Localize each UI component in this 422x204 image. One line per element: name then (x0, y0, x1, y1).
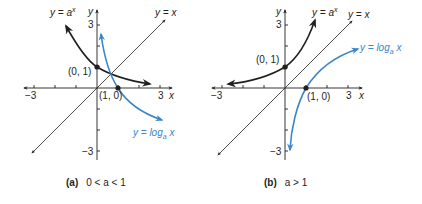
tick-label-3: 3 (346, 90, 352, 101)
point-log-intercept (303, 85, 308, 90)
caption-b: (b)a > 1 (264, 177, 308, 188)
x-axis-label: x (168, 90, 175, 101)
panel-b: −3 3 x y 3 −3 (0, 1) (1, 0) y = ax y = x… (211, 6, 402, 188)
y-axis-label: y (275, 6, 282, 17)
caption-a: (a)0 < a < 1 (66, 177, 126, 188)
y-tick-label-neg3: −3 (82, 146, 94, 157)
point-exp-intercept (282, 64, 287, 69)
tick-label-neg3: −3 (211, 90, 223, 101)
point-log-label: (1, 0) (307, 91, 330, 102)
identity-line-label: y = x (347, 9, 370, 20)
point-log-label: (1, 0) (99, 90, 122, 101)
panel-a: −3 3 x y 3 −3 (0, 1) (1, 0) y = ax y = x… (24, 6, 177, 188)
exp-curve-label: y = ax (49, 6, 76, 18)
point-exp-label: (0, 1) (256, 54, 279, 65)
x-axis-label: x (358, 90, 365, 101)
y-tick-label-3: 3 (88, 19, 94, 30)
y-tick-label-3: 3 (276, 19, 282, 30)
point-exp-label: (0, 1) (68, 66, 91, 77)
point-exp-intercept (94, 64, 99, 69)
figure-canvas: −3 3 x y 3 −3 (0, 1) (1, 0) y = ax y = x… (0, 0, 422, 204)
log-curve-label: y = loga x (132, 127, 175, 140)
exponential-curve (228, 20, 315, 84)
y-axis-label: y (87, 6, 94, 17)
tick-label-neg3: −3 (25, 90, 37, 101)
exp-curve-label: y = ax (311, 6, 338, 18)
identity-line-label: y = x (154, 7, 177, 18)
tick-label-3: 3 (158, 90, 164, 101)
logarithmic-curve (101, 34, 162, 120)
log-curve-label: y = loga x (359, 42, 402, 55)
y-tick-label-neg3: −3 (270, 146, 282, 157)
